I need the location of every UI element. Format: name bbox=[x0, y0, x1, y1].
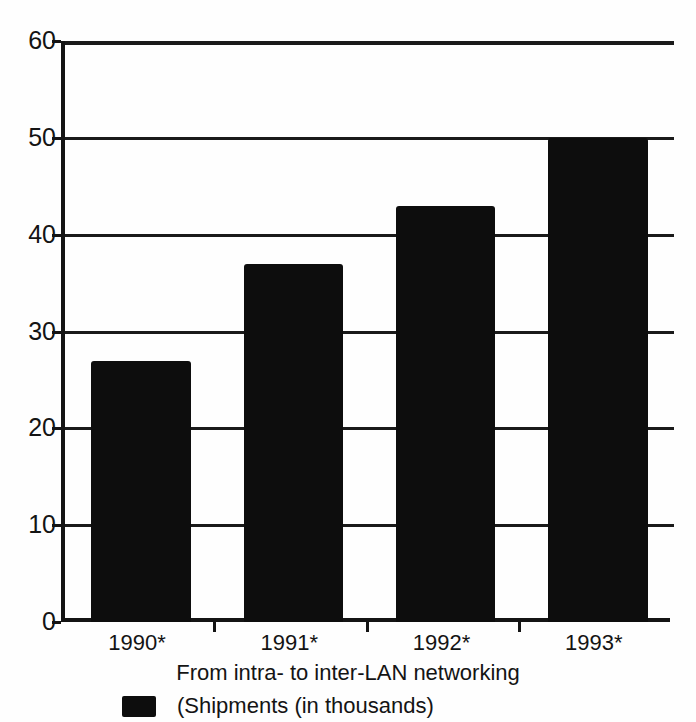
y-axis: 0102030405060 bbox=[0, 0, 56, 722]
legend-swatch-shipments bbox=[122, 696, 156, 717]
y-tick-mark-50 bbox=[52, 137, 61, 140]
bar-1993 bbox=[548, 138, 648, 622]
y-tick-label-0: 0 bbox=[4, 609, 56, 634]
x-tick-label-1990: 1990* bbox=[61, 630, 213, 656]
x-tick-label-1992: 1992* bbox=[366, 630, 518, 656]
y-tick-label-40: 40 bbox=[4, 222, 56, 247]
x-tick-mark-3 bbox=[518, 622, 521, 632]
bar-1991 bbox=[244, 264, 344, 622]
plot-area bbox=[61, 41, 670, 622]
y-tick-label-30: 30 bbox=[4, 319, 56, 344]
x-tick-label-1991: 1991* bbox=[213, 630, 365, 656]
x-tick-mark-2 bbox=[366, 622, 369, 632]
legend-label-shipments: (Shipments (in thousands) bbox=[177, 693, 434, 719]
y-tick-mark-60 bbox=[52, 40, 61, 43]
y-tick-mark-10 bbox=[52, 524, 61, 527]
x-tick-mark-1 bbox=[213, 622, 216, 632]
bar-1992 bbox=[396, 206, 496, 622]
y-tick-label-60: 60 bbox=[4, 28, 56, 53]
bar-1990 bbox=[91, 361, 191, 622]
y-tick-label-50: 50 bbox=[4, 125, 56, 150]
y-tick-mark-30 bbox=[52, 331, 61, 334]
bars-group bbox=[65, 41, 674, 622]
y-tick-label-20: 20 bbox=[4, 415, 56, 440]
chart-legend: (Shipments (in thousands) bbox=[122, 691, 434, 721]
y-tick-mark-20 bbox=[52, 427, 61, 430]
y-tick-label-10: 10 bbox=[4, 512, 56, 537]
x-tick-label-1993: 1993* bbox=[518, 630, 670, 656]
bar-chart-figure: 0102030405060 1990*1991*1992*1993* From … bbox=[0, 0, 696, 722]
x-axis: 1990*1991*1992*1993* bbox=[61, 630, 670, 660]
chart-caption: From intra- to inter-LAN networking bbox=[0, 659, 696, 687]
y-tick-mark-40 bbox=[52, 234, 61, 237]
y-tick-mark-0 bbox=[52, 621, 61, 624]
